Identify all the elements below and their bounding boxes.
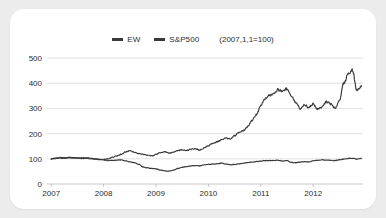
x-tick-label-2010: 2010 (200, 189, 218, 198)
series-line-s-p500 (51, 158, 361, 172)
x-tick-label-2008: 2008 (95, 189, 113, 198)
chart-card: EW S&P500 (2007,1,1=100) 010020030040050… (10, 9, 376, 209)
x-tick-label-2012: 2012 (304, 189, 322, 198)
y-tick-label-0: 0 (38, 180, 43, 189)
plot-area: 0100200300400500 20072008200920102011201… (10, 9, 376, 209)
x-tick-label-2011: 2011 (252, 189, 270, 198)
y-tick-label-300: 300 (29, 104, 43, 113)
y-tick-label-200: 200 (29, 130, 43, 139)
series-line-ew (51, 69, 361, 160)
chart-svg: 0100200300400500 20072008200920102011201… (10, 9, 376, 209)
data-series-group (51, 69, 361, 172)
y-axis-tick-labels: 0100200300400500 (29, 54, 43, 189)
y-tick-label-500: 500 (29, 54, 43, 63)
y-tick-label-100: 100 (29, 155, 43, 164)
x-axis-tick-labels: 200720082009201020112012 (42, 189, 322, 198)
y-tick-label-400: 400 (29, 79, 43, 88)
x-axis-group (47, 184, 363, 187)
x-tick-label-2009: 2009 (147, 189, 165, 198)
x-tick-label-2007: 2007 (42, 189, 60, 198)
